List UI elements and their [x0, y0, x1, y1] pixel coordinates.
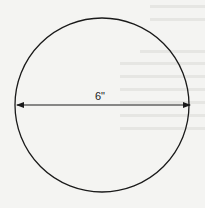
- diameter-label: 6": [95, 90, 105, 102]
- circle-diagram: [0, 0, 205, 208]
